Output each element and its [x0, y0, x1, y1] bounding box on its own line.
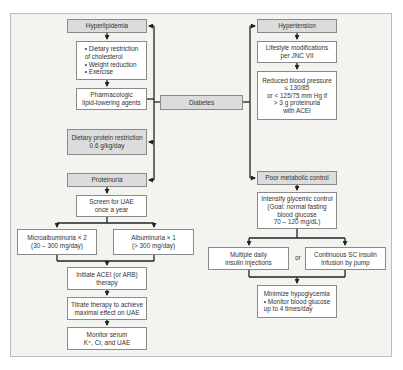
intensify-glycemic-box: Intensify glycemic control (Goal: normal…: [257, 192, 337, 229]
minimize-hypoglycemia-box: Minimize hypoglycemia • Monitor blood gl…: [257, 285, 337, 318]
albuminuria-text: Albuminuria × 1 (> 300 mg/day): [131, 234, 176, 249]
microalbuminuria-text: Microalbuminuria × 2 (30 – 300 mg/day): [27, 234, 87, 249]
microalbuminuria-box: Microalbuminuria × 2 (30 – 300 mg/day): [17, 229, 97, 255]
dietary-protein-text: Dietary protein restriction 0.6 g/kg/day: [71, 134, 142, 149]
hypertension-label: Hypertension: [278, 22, 316, 30]
pharmacologic-text: Pharmacologic lipid-lowering agents: [82, 91, 140, 106]
poor-metabolic-control-box: Poor metabolic control: [257, 171, 337, 185]
pharmacologic-box: Pharmacologic lipid-lowering agents: [76, 88, 147, 110]
diabetes-box: Diabetes: [160, 95, 243, 110]
lifestyle-modifications-box: Lifestyle modifications per JNC VII: [257, 41, 337, 63]
diabetes-label: Diabetes: [189, 99, 214, 107]
intensify-glycemic-text: Intensify glycemic control (Goal: normal…: [261, 195, 332, 225]
minimize-hypoglycemia-text: Minimize hypoglycemia • Monitor blood gl…: [264, 290, 331, 313]
multiple-injections-box: Multiple daily insulin injections: [208, 247, 289, 270]
lifestyle-modifications-text: Lifestyle modifications per JNC VII: [266, 44, 329, 59]
blood-pressure-target-box: Reduced blood pressure ≤ 130/85 or < 125…: [257, 71, 337, 120]
hyperlipidemia-lifestyle-box: • Dietary restriction of cholesterol • W…: [76, 41, 147, 80]
albuminuria-box: Albuminuria × 1 (> 300 mg/day): [113, 229, 194, 255]
proteinuria-box: Proteinuria: [67, 173, 147, 187]
or-label: or: [295, 254, 301, 261]
connector-lines: [0, 0, 403, 370]
insulin-pump-box: Continuous SC insulin infusion by pump: [305, 247, 386, 270]
poor-metabolic-control-label: Poor metabolic control: [265, 174, 329, 182]
screen-uae-box: Screen for UAE once a year: [76, 195, 147, 217]
initiate-acei-text: Initiate ACEI (or ARB) therapy: [76, 271, 137, 286]
screen-uae-text: Screen for UAE once a year: [89, 198, 133, 213]
monitor-serum-text: Monitor serum K⁺, Cr, and UAE: [84, 331, 130, 346]
initiate-acei-box: Initiate ACEI (or ARB) therapy: [67, 267, 147, 290]
hyperlipidemia-lifestyle-text: • Dietary restriction of cholesterol • W…: [85, 45, 139, 75]
hypertension-box: Hypertension: [257, 19, 337, 33]
proteinuria-label: Proteinuria: [92, 176, 123, 184]
monitor-serum-box: Monitor serum K⁺, Cr, and UAE: [67, 327, 147, 350]
hyperlipidemia-box: Hyperlipidemia: [67, 19, 147, 33]
hyperlipidemia-label: Hyperlipidemia: [86, 22, 128, 30]
blood-pressure-target-text: Reduced blood pressure ≤ 130/85 or < 125…: [262, 77, 332, 115]
titrate-therapy-box: Titrate therapy to achieve maximal effec…: [67, 297, 147, 320]
dietary-protein-box: Dietary protein restriction 0.6 g/kg/day: [67, 129, 147, 155]
titrate-therapy-text: Titrate therapy to achieve maximal effec…: [71, 301, 143, 316]
insulin-pump-text: Continuous SC insulin infusion by pump: [314, 251, 377, 266]
multiple-injections-text: Multiple daily insulin injections: [225, 251, 272, 266]
